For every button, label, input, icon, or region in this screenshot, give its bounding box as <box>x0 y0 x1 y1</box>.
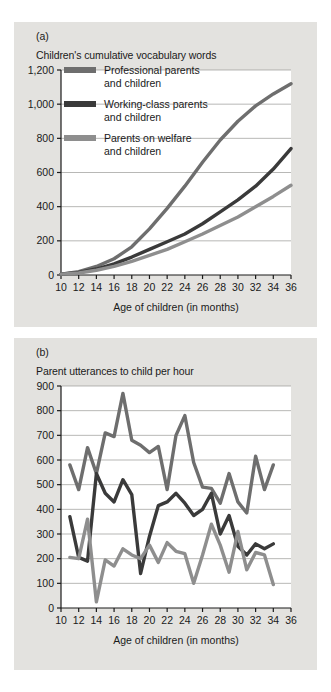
x-tick-label: 22 <box>161 614 173 626</box>
panel-b: (b) Parent utterances to child per hour … <box>14 338 317 670</box>
x-tick-label: 34 <box>267 281 279 293</box>
x-tick-label: 20 <box>144 614 156 626</box>
x-tick-label: 18 <box>126 614 138 626</box>
legend-sublabel-welfare: and children <box>104 145 161 157</box>
x-tick-label: 32 <box>250 614 262 626</box>
y-tick-label: 0 <box>48 602 54 614</box>
x-tick-label: 24 <box>179 614 191 626</box>
x-tick-label: 10 <box>55 614 67 626</box>
x-tick-label: 28 <box>214 614 226 626</box>
y-tick-label: 200 <box>36 234 54 246</box>
x-axis-title: Age of children (in months) <box>113 301 238 313</box>
chart-a-svg: 02004006008001,0001,20010121416182022242… <box>14 22 317 327</box>
x-tick-label: 12 <box>73 614 85 626</box>
figure-container: (a) Children's cumulative vocabulary wor… <box>0 0 331 692</box>
x-tick-label: 10 <box>55 281 67 293</box>
x-tick-label: 24 <box>179 281 191 293</box>
legend-sublabel-working_class: and children <box>104 111 161 123</box>
y-tick-label: 1,000 <box>28 98 54 110</box>
x-axis-title: Age of children (in months) <box>113 634 238 646</box>
y-tick-label: 600 <box>36 454 54 466</box>
x-tick-label: 26 <box>197 614 209 626</box>
y-tick-label: 0 <box>48 269 54 281</box>
x-tick-label: 34 <box>267 614 279 626</box>
y-tick-label: 800 <box>36 132 54 144</box>
x-tick-label: 30 <box>232 281 244 293</box>
legend-label-professional: Professional parents <box>104 64 200 76</box>
x-tick-label: 36 <box>285 281 297 293</box>
chart-b-svg: 0100200300400500600700800900101214161820… <box>14 338 317 670</box>
x-tick-label: 16 <box>108 614 120 626</box>
x-tick-label: 22 <box>161 281 173 293</box>
y-tick-label: 900 <box>36 380 54 392</box>
x-tick-label: 12 <box>73 281 85 293</box>
x-tick-label: 18 <box>126 281 138 293</box>
y-tick-label: 300 <box>36 528 54 540</box>
x-tick-label: 30 <box>232 614 244 626</box>
x-tick-label: 36 <box>285 614 297 626</box>
y-tick-label: 200 <box>36 552 54 564</box>
x-tick-label: 26 <box>197 281 209 293</box>
y-tick-label: 400 <box>36 200 54 212</box>
y-tick-label: 800 <box>36 404 54 416</box>
y-tick-label: 700 <box>36 429 54 441</box>
y-tick-label: 600 <box>36 166 54 178</box>
x-tick-label: 20 <box>144 281 156 293</box>
y-tick-label: 1,200 <box>28 64 54 76</box>
x-tick-label: 14 <box>91 614 103 626</box>
legend-sublabel-professional: and children <box>104 77 161 89</box>
panel-a: (a) Children's cumulative vocabulary wor… <box>14 22 317 327</box>
x-tick-label: 14 <box>91 281 103 293</box>
x-tick-label: 16 <box>108 281 120 293</box>
y-tick-label: 500 <box>36 478 54 490</box>
x-tick-label: 32 <box>250 281 262 293</box>
legend-label-welfare: Parents on welfare <box>104 132 192 144</box>
legend-label-working_class: Working-class parents <box>104 98 208 110</box>
y-tick-label: 400 <box>36 503 54 515</box>
x-tick-label: 28 <box>214 281 226 293</box>
y-tick-label: 100 <box>36 577 54 589</box>
